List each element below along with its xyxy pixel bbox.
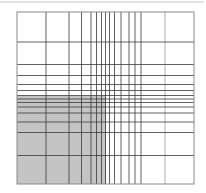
grid-diagram — [0, 0, 206, 193]
shaded-region — [17, 96, 106, 184]
